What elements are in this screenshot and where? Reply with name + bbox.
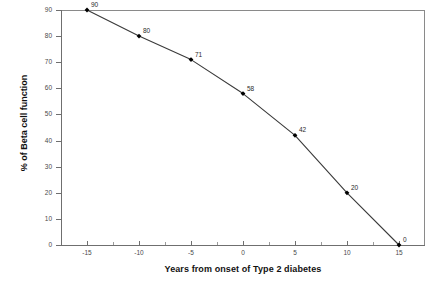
- x-tick: [191, 241, 192, 245]
- y-tick: [56, 62, 61, 63]
- data-point-label: 80: [143, 28, 150, 35]
- x-tick: [243, 241, 244, 245]
- y-axis-line: [61, 10, 62, 246]
- y-tick: [56, 219, 61, 220]
- y-tick: [56, 245, 61, 246]
- x-tick: [347, 241, 348, 245]
- plot-frame: [61, 10, 425, 246]
- x-tick: [139, 241, 140, 245]
- x-tick-label: -15: [67, 250, 107, 257]
- data-point-label: 90: [91, 2, 98, 9]
- x-tick-minor: [321, 242, 322, 245]
- data-point-label: 58: [247, 86, 254, 93]
- x-tick-label: -10: [119, 250, 159, 257]
- x-axis-title: Years from onset of Type 2 diabetes: [61, 264, 425, 274]
- x-tick-minor: [217, 242, 218, 245]
- y-tick: [56, 167, 61, 168]
- x-tick-label: 10: [327, 250, 367, 257]
- y-tick: [56, 88, 61, 89]
- y-tick: [56, 114, 61, 115]
- y-tick: [56, 10, 61, 11]
- y-tick: [56, 36, 61, 37]
- chart-canvas: 0102030405060708090 -15-10-5051015 90807…: [0, 0, 433, 284]
- y-tick-label: 0: [0, 242, 52, 249]
- data-point-label: 20: [351, 185, 358, 192]
- x-tick-minor: [373, 242, 374, 245]
- x-tick-label: 15: [379, 250, 419, 257]
- data-point-label: 71: [195, 52, 202, 59]
- x-tick-label: -5: [171, 250, 211, 257]
- x-tick-minor: [269, 242, 270, 245]
- x-tick-minor: [113, 242, 114, 245]
- x-tick-minor: [165, 242, 166, 245]
- x-tick-label: 0: [223, 250, 263, 257]
- y-tick-label: 10: [0, 216, 52, 223]
- y-tick: [56, 141, 61, 142]
- y-tick: [56, 193, 61, 194]
- x-tick: [295, 241, 296, 245]
- x-axis-line: [61, 245, 425, 246]
- y-axis-title: % of Beta cell function: [19, 38, 29, 208]
- x-tick-label: 5: [275, 250, 315, 257]
- y-tick-label: 90: [0, 7, 52, 14]
- data-point-label: 42: [299, 127, 306, 134]
- x-tick: [399, 241, 400, 245]
- data-point-label: 0: [403, 237, 407, 244]
- x-tick: [87, 241, 88, 245]
